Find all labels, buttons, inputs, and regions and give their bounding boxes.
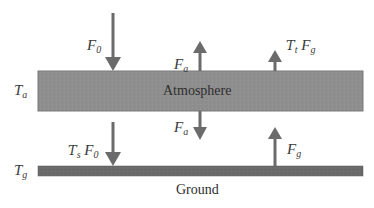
transmissivity-symbol: T [68,143,77,158]
atmosphere-down-flux-label: Fa [174,120,188,137]
ground-layer [38,166,363,176]
incoming-solar-label: F0 [87,38,101,55]
flux-symbol: F [301,37,310,53]
flux-subscript: a [183,126,188,137]
flux-symbol: F [174,56,183,72]
flux-subscript: 0 [94,149,99,160]
atmosphere-up-flux-label: Fa [174,57,188,74]
transmitted-solar-flux-label: Ts F0 [68,143,99,160]
flux-subscript: 0 [96,44,101,55]
energy-balance-diagram: F0 Fa Tt Fg Atmosphere Ta Fa Ts F0 Fg Tg… [0,0,374,208]
atmosphere-emission-up-arrow-icon [193,41,207,71]
transmissivity-symbol: T [286,38,295,53]
ground-emission-up-arrow-icon [268,127,282,166]
transmitted-solar-down-arrow-icon [105,122,121,166]
transmissivity-subscript: t [295,44,298,55]
ground-label: Ground [176,183,219,197]
transmissivity-subscript: s [77,149,81,160]
flux-subscript: g [296,148,301,159]
atmosphere-temperature-label: Ta [14,83,27,100]
flux-symbol: F [287,141,296,157]
ground-flux-label: Fg [287,142,301,159]
incoming-solar-arrow-icon [105,13,121,71]
transmitted-ground-flux-label: Tt Fg [286,38,315,55]
ground-temperature-label: Tg [14,163,27,180]
flux-symbol: F [87,37,96,53]
diagram-canvas [0,0,374,208]
flux-symbol: F [174,119,183,135]
atmosphere-emission-down-arrow-icon [193,111,207,140]
atmosphere-label: Atmosphere [163,84,231,98]
flux-subscript: g [310,44,315,55]
flux-symbol: F [84,142,93,158]
transmitted-ground-up-arrow-icon [268,50,282,71]
temperature-subscript: g [22,169,27,180]
temperature-subscript: a [22,89,27,100]
flux-subscript: a [183,63,188,74]
